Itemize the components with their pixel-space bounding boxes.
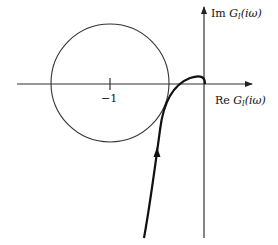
real-prefix: Re xyxy=(215,94,230,107)
nyquist-curve xyxy=(144,76,205,238)
nyquist-diagram xyxy=(0,0,278,245)
real-arg: (iω) xyxy=(245,94,266,107)
imag-func: G xyxy=(229,7,238,20)
tick-label-minus-one: −1 xyxy=(101,92,117,105)
direction-arrow-icon xyxy=(154,147,161,157)
imag-arg: (iω) xyxy=(241,7,262,20)
real-axis-label: Re Gl(iω) xyxy=(215,94,266,108)
imag-axis-label: Im Gl(iω) xyxy=(211,7,262,21)
real-func: G xyxy=(233,94,242,107)
imag-prefix: Im xyxy=(211,7,226,20)
